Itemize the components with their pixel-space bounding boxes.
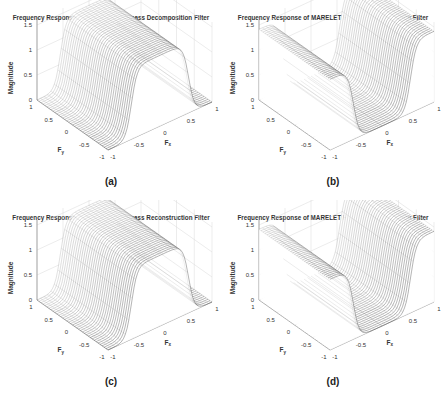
svg-text:-0.5: -0.5 [356,142,367,148]
svg-text:0.5: 0.5 [409,318,418,324]
svg-text:Fx: Fx [165,339,172,348]
svg-text:1.5: 1.5 [246,222,255,228]
svg-text:0.5: 0.5 [246,72,255,78]
svg-text:-1: -1 [332,354,338,360]
svg-text:-1: -1 [321,354,327,360]
svg-text:-1: -1 [332,154,338,160]
panel-caption: (d) [222,376,444,387]
svg-text:1.5: 1.5 [24,222,33,228]
svg-text:-1: -1 [321,154,327,160]
svg-text:Fx: Fx [387,339,394,348]
svg-text:0.5: 0.5 [45,317,54,323]
svg-text:0: 0 [163,330,167,336]
svg-text:-0.5: -0.5 [356,342,367,348]
panel-a: Frequency Response of MARELET Lowpass De… [0,0,222,200]
svg-text:0.5: 0.5 [187,318,196,324]
svg-text:0.5: 0.5 [267,117,276,123]
surface-plot: 00.511.510.50-0.5-1-1-0.500.51MagnitudeF… [222,0,444,200]
svg-text:Fx: Fx [165,139,172,148]
svg-text:0.5: 0.5 [24,72,33,78]
svg-text:0: 0 [251,297,255,303]
svg-text:0: 0 [385,130,389,136]
svg-text:1: 1 [29,304,33,310]
svg-text:Magnitude: Magnitude [229,261,237,294]
svg-text:-0.5: -0.5 [301,342,312,348]
svg-text:0.5: 0.5 [246,272,255,278]
svg-text:1: 1 [215,306,219,312]
svg-text:0: 0 [163,130,167,136]
panel-c: Frequency Response of MARELET Lowpass Re… [0,200,222,400]
surface-plot: 00.511.510.50-0.5-1-1-0.500.51MagnitudeF… [0,0,222,200]
svg-text:Magnitude: Magnitude [7,261,15,294]
svg-text:-0.5: -0.5 [134,342,145,348]
svg-text:1.5: 1.5 [246,22,255,28]
svg-text:-0.5: -0.5 [79,142,90,148]
svg-text:0: 0 [251,97,255,103]
svg-text:0: 0 [287,329,291,335]
svg-text:-1: -1 [110,354,116,360]
svg-text:-0.5: -0.5 [79,342,90,348]
svg-text:0: 0 [29,297,33,303]
svg-text:0: 0 [385,330,389,336]
svg-text:1: 1 [29,104,33,110]
svg-text:-1: -1 [99,354,105,360]
svg-text:-1: -1 [110,154,116,160]
svg-text:Fy: Fy [280,346,287,355]
svg-text:1: 1 [437,306,441,312]
svg-text:1: 1 [251,247,255,253]
panel-caption: (b) [222,176,444,187]
svg-text:-1: -1 [99,154,105,160]
svg-text:0: 0 [65,329,69,335]
panel-d: Frequency Response of MARELET Hipass Rec… [222,200,444,400]
panel-b: Frequency Response of MARELET Hipass Dec… [222,0,444,200]
svg-text:Fy: Fy [58,146,65,155]
svg-text:Magnitude: Magnitude [7,61,15,94]
svg-text:1: 1 [29,47,33,53]
svg-text:0: 0 [287,129,291,135]
surface-plot: 00.511.510.50-0.5-1-1-0.500.51MagnitudeF… [0,200,222,400]
panel-caption: (a) [0,176,222,187]
svg-text:0.5: 0.5 [409,118,418,124]
svg-text:Fy: Fy [280,146,287,155]
svg-text:0: 0 [65,129,69,135]
svg-text:Magnitude: Magnitude [229,61,237,94]
svg-text:0.5: 0.5 [267,317,276,323]
svg-text:-0.5: -0.5 [134,142,145,148]
surface-plot: 00.511.510.50-0.5-1-1-0.500.51MagnitudeF… [222,200,444,400]
panel-caption: (c) [0,376,222,387]
svg-text:0.5: 0.5 [187,118,196,124]
svg-text:0.5: 0.5 [45,117,54,123]
svg-text:Fy: Fy [58,346,65,355]
svg-text:0: 0 [29,97,33,103]
svg-text:1: 1 [251,304,255,310]
svg-text:Fx: Fx [387,139,394,148]
svg-text:1.5: 1.5 [24,22,33,28]
svg-text:-0.5: -0.5 [301,142,312,148]
svg-text:1: 1 [29,247,33,253]
svg-text:1: 1 [251,47,255,53]
svg-text:0.5: 0.5 [24,272,33,278]
svg-text:1: 1 [437,106,441,112]
svg-text:1: 1 [215,106,219,112]
svg-text:1: 1 [251,104,255,110]
